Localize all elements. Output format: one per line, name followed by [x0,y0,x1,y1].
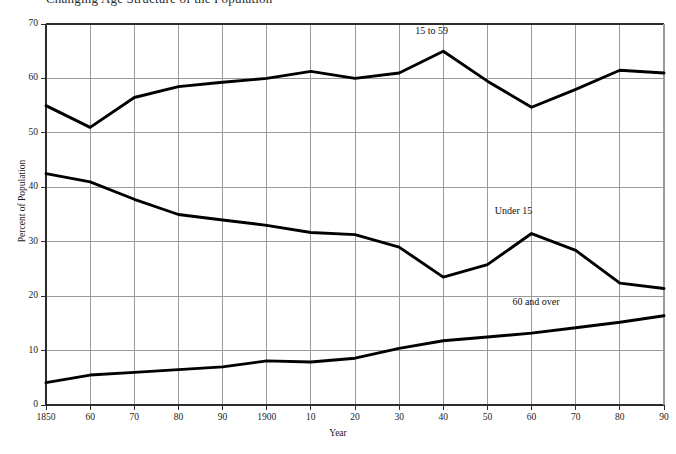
x-tick-label: 90 [639,412,676,422]
x-tick-label: 70 [109,412,159,422]
y-tick-label: 50 [8,127,38,137]
x-tick-label: 80 [595,412,645,422]
x-tick-label: 20 [330,412,380,422]
series-label-0: 15 to 59 [415,25,448,36]
line-chart-plot [0,0,676,454]
x-tick-label: 50 [462,412,512,422]
x-tick-label: 40 [418,412,468,422]
x-tick-label: 80 [153,412,203,422]
y-tick-label: 60 [8,72,38,82]
y-tick-label: 10 [8,345,38,355]
chart-figure: Changing Age Structure of the Population… [0,0,676,454]
x-tick-label: 1900 [242,412,292,422]
y-tick-label: 0 [8,399,38,409]
y-axis-title: Percent of Population [17,141,27,261]
x-tick-label: 1850 [21,412,71,422]
y-tick-label: 20 [8,290,38,300]
x-tick-label: 60 [507,412,557,422]
series-label-2: 60 and over [512,296,559,307]
x-axis-title: Year [0,428,676,438]
x-tick-label: 90 [198,412,248,422]
x-tick-label: 60 [65,412,115,422]
x-tick-label: 10 [286,412,336,422]
series-label-1: Under 15 [495,205,533,216]
x-tick-label: 70 [551,412,601,422]
gridlines-vertical [90,24,620,405]
y-tick-label: 70 [8,18,38,28]
x-tick-label: 30 [374,412,424,422]
